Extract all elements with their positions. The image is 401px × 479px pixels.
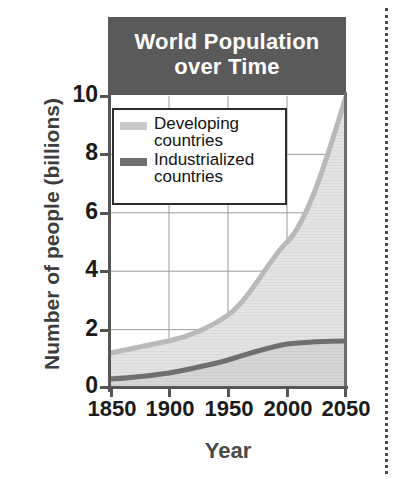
legend-item-industrialized: Industrialized countries xyxy=(120,151,281,186)
y-axis-line xyxy=(108,92,111,392)
chart-title-line2: over Time xyxy=(135,55,320,80)
y-tick-label-2: 2 xyxy=(85,317,98,340)
chart-title-line1: World Population xyxy=(135,30,320,55)
legend-label-industrialized-line2: countries xyxy=(154,168,254,185)
x-tick-labels: 1850 1900 1950 2000 2050 xyxy=(60,398,390,432)
legend-label-developing: Developing countries xyxy=(154,115,239,150)
y-tick-4 xyxy=(100,270,111,273)
population-chart-figure: World Population over Time xyxy=(0,0,401,479)
plot-right-edge xyxy=(344,92,347,390)
y-tick-label-4: 4 xyxy=(85,258,98,281)
legend-item-developing: Developing countries xyxy=(120,115,281,150)
industrialized-swatch-icon xyxy=(120,158,147,166)
x-tick-label-2050: 2050 xyxy=(322,398,371,420)
y-tick-label-0: 0 xyxy=(85,374,98,397)
developing-swatch-icon xyxy=(120,122,147,130)
x-tick-label-1950: 1950 xyxy=(205,398,254,420)
y-tick-10 xyxy=(100,95,111,98)
y-tick-6 xyxy=(100,212,111,215)
legend-label-developing-line2: countries xyxy=(154,132,239,149)
y-tick-label-8: 8 xyxy=(85,141,98,164)
x-tick-label-1850: 1850 xyxy=(88,398,137,420)
legend-label-industrialized-line1: Industrialized xyxy=(154,150,254,169)
x-axis-title: Year xyxy=(110,438,346,464)
y-tick-8 xyxy=(100,153,111,156)
legend-label-industrialized: Industrialized countries xyxy=(154,151,254,186)
legend-label-developing-line1: Developing xyxy=(154,114,239,133)
y-tick-2 xyxy=(100,329,111,332)
y-tick-label-6: 6 xyxy=(85,200,98,223)
y-tick-label-10: 10 xyxy=(72,83,98,106)
x-tick-label-2000: 2000 xyxy=(264,398,313,420)
x-tick-label-1900: 1900 xyxy=(146,398,195,420)
y-axis-title: Number of people (billions) xyxy=(40,94,64,374)
chart-title-banner: World Population over Time xyxy=(108,17,346,95)
chart-legend: Developing countries Industrialized coun… xyxy=(112,108,287,205)
